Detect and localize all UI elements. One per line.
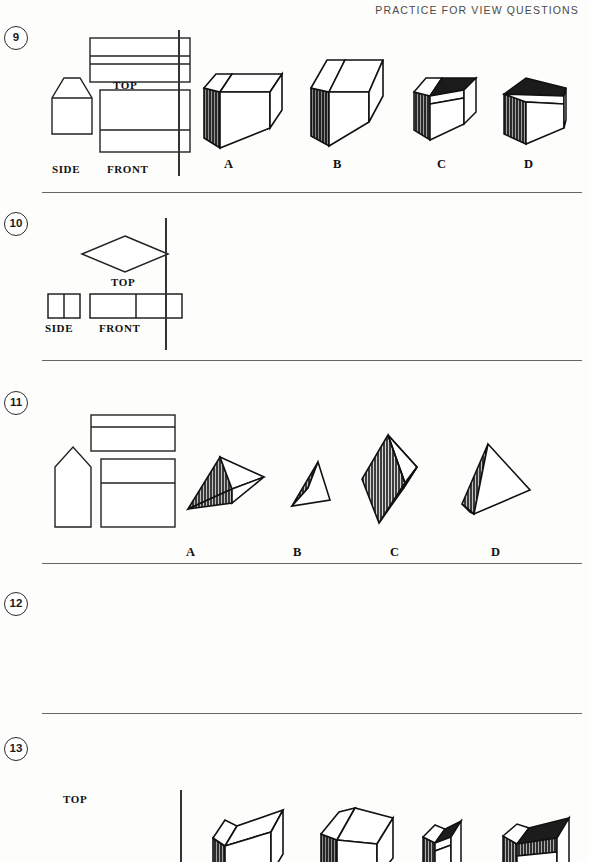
separator-rule-10 (165, 218, 167, 350)
page-canvas: PRACTICE FOR VIEW QUESTIONS 9 TOP SIDE F… (0, 0, 589, 862)
separator-rule-9 (178, 30, 180, 176)
ortho-label-front-10: FRONT (99, 322, 141, 334)
answer-shape-9-c[interactable] (410, 68, 498, 150)
question-block-9: 9 TOP SIDE FRONT (0, 0, 589, 200)
choice-label-9-b: B (333, 157, 341, 172)
ortho-label-side-9: SIDE (52, 163, 80, 175)
choice-label-9-a: A (224, 157, 233, 172)
ortho-label-top-9: TOP (113, 79, 137, 91)
choice-label-9-c: C (437, 157, 446, 172)
question-divider-10 (42, 360, 582, 361)
question-number-12: 12 (4, 592, 28, 616)
question-divider-9 (42, 192, 582, 193)
question-divider-12 (42, 713, 582, 714)
question-number-13: 13 (4, 737, 28, 761)
question-block-13: 13 TOP SIDE FRONT (0, 725, 589, 862)
ortho-views-9 (40, 30, 200, 180)
question-block-11: 11 TOP SIDE FRONT (0, 375, 589, 575)
question-divider-11 (42, 563, 582, 564)
answer-shape-9-d[interactable] (496, 72, 582, 154)
choice-label-9-d: D (524, 157, 533, 172)
question-block-10: 10 TOP SIDE FRONT (0, 200, 589, 375)
answer-shape-9-b[interactable] (305, 52, 395, 152)
question-number-9: 9 (4, 26, 28, 50)
ortho-label-top-10: TOP (111, 276, 135, 288)
question-number-11: 11 (4, 391, 28, 415)
ortho-label-side-10: SIDE (45, 322, 73, 334)
ortho-label-front-9: FRONT (107, 163, 149, 175)
ortho-views-11 (45, 407, 185, 547)
answer-shape-9-a[interactable] (198, 62, 292, 150)
question-number-10: 10 (4, 212, 28, 236)
question-block-12: 12 TOP SIDE FRONT (0, 575, 589, 725)
